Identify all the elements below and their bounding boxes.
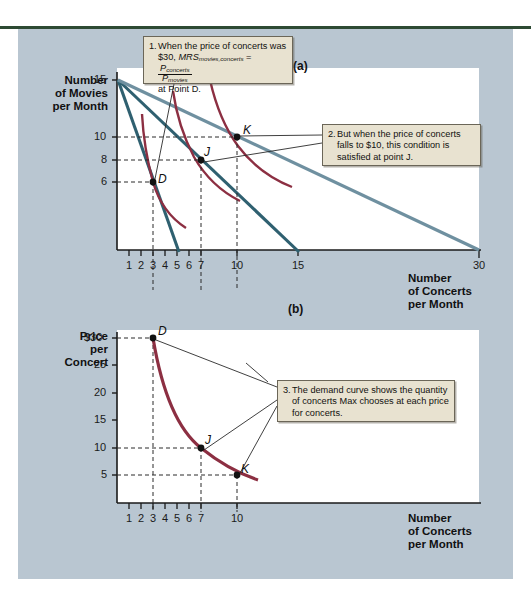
- panel-b-leader-lines: [156, 340, 277, 473]
- panel-b-point-label-K: K: [241, 462, 249, 476]
- panel-b-xtick-7: 7: [198, 512, 204, 524]
- panel-b-ytick-30: $30: [84, 331, 102, 343]
- panel-b-ytick-5: 5: [101, 468, 107, 480]
- panel-a-ytick-15: 15: [94, 73, 106, 85]
- panel-a-xtick-5: 5: [174, 259, 180, 271]
- callout-1-frac-numerator-subscript: concerts: [166, 67, 189, 74]
- panel-b-xtick-6: 6: [186, 512, 192, 524]
- callout-3-line3: for concerts.: [292, 408, 343, 418]
- callout-2-number: 2.: [328, 129, 336, 140]
- callout-3-number: 3.: [283, 385, 291, 396]
- callout-1-price-ratio: PconcertsPmovies: [158, 65, 192, 84]
- panel-a-xtick-6: 6: [186, 259, 192, 271]
- callout-2-line1: But when the price of concerts: [337, 129, 461, 139]
- panel-a-xtick-10: 10: [231, 259, 243, 271]
- panel-a-id: (a): [293, 59, 308, 73]
- callout-3-line1: The demand curve shows the quantity: [292, 385, 447, 395]
- callout-1-frac-denominator-subscript: movies: [168, 76, 188, 83]
- panel-a-xtick-15: 15: [292, 259, 304, 271]
- callout-1-equals: =: [244, 52, 252, 62]
- callout-1: 1. When the price of concerts was $30, M…: [143, 36, 293, 84]
- panel-b-xtick-5: 5: [174, 512, 180, 524]
- panel-a-point-label-D: D: [158, 172, 167, 186]
- panel-a-xtick-3: 3: [150, 259, 156, 271]
- panel-a-xtick-2: 2: [138, 259, 144, 271]
- panel-b-ytick-25: 25: [94, 358, 106, 370]
- callout-3-body: The demand curve shows the quantity of c…: [283, 385, 449, 419]
- panel-b-xtick-10: 10: [231, 512, 243, 524]
- callout-1-mrs-subscript: movies,concerts: [199, 56, 244, 63]
- panel-a-ytick-6: 6: [101, 175, 107, 187]
- panel-b-xtick-4: 4: [162, 512, 168, 524]
- callout-2-line2: falls to $10, this condition is: [337, 140, 449, 150]
- panel-b-ytick-20: 20: [94, 386, 106, 398]
- panel-b-point-label-D: D: [158, 324, 167, 338]
- panel-a-xtick-1: 1: [126, 259, 132, 271]
- callout-3: 3. The demand curve shows the quantity o…: [277, 380, 455, 422]
- panel-b-ytick-10: 10: [94, 441, 106, 453]
- panel-a-xtick-30: 30: [473, 259, 485, 271]
- panel-a-point-label-K: K: [243, 123, 251, 137]
- figure-container: (a) (b) Numberof Moviesper Month Numbero…: [0, 0, 531, 594]
- callout-1-line2-prefix: $30,: [158, 52, 178, 62]
- panel-a-x-axis-title: Numberof Concertsper Month: [408, 272, 504, 311]
- panel-a-point-label-J: J: [204, 145, 210, 159]
- callout-1-line3: at Point D.: [158, 84, 201, 94]
- callout-2-line3: satisfied at point J.: [337, 152, 413, 162]
- panel-a-xtick-4: 4: [162, 259, 168, 271]
- panel-a-budget-lines: [118, 80, 479, 252]
- panel-b-point-label-J: J: [205, 433, 211, 447]
- point-K-panel-a: [234, 134, 241, 141]
- panel-b-xtick-1: 1: [126, 512, 132, 524]
- callout-1-number: 1.: [149, 41, 157, 52]
- panel-b-x-axis-title: Numberof Concertsper Month: [408, 512, 504, 551]
- point-K-panel-b: [234, 472, 241, 479]
- panel-b-data-points: [150, 335, 241, 479]
- callout-3-line2: of concerts Max chooses at each price: [292, 396, 449, 406]
- panel-b-xtick-3: 3: [150, 512, 156, 524]
- panel-b-id: (b): [288, 302, 303, 316]
- panel-b-xtick-2: 2: [138, 512, 144, 524]
- panel-a-ytick-10: 10: [94, 130, 106, 142]
- panel-b-ytick-15: 15: [94, 413, 106, 425]
- point-D-panel-a: [150, 179, 157, 186]
- callout-2-body: But when the price of concerts falls to …: [328, 129, 475, 163]
- callout-1-mrs: MRS: [178, 52, 198, 62]
- callout-1-body: When the price of concerts was $30, MRSm…: [149, 41, 287, 95]
- point-J-panel-b: [198, 445, 205, 452]
- point-D-panel-b: [150, 335, 157, 342]
- panel-a-xtick-7: 7: [198, 259, 204, 271]
- panel-a-ytick-8: 8: [101, 153, 107, 165]
- callout-2: 2. But when the price of concerts falls …: [322, 124, 481, 166]
- callout-1-line1: When the price of concerts was: [158, 41, 286, 51]
